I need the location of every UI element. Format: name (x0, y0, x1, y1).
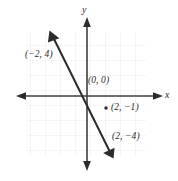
graph-canvas (0, 0, 178, 181)
y-axis-label: y (82, 5, 87, 15)
plotted-point-2-neg1 (104, 106, 107, 109)
coordinate-plane-figure: y x (−2, 4) (0, 0) (2, −1) (2, −4) (0, 0, 178, 181)
point-label-2-neg4: (2, −4) (112, 132, 140, 142)
point-label-2-neg1: (2, −1) (111, 103, 139, 113)
x-axis-label: x (165, 90, 170, 100)
point-label-neg2-4: (−2, 4) (25, 50, 53, 60)
point-label-origin: (0, 0) (88, 76, 109, 86)
